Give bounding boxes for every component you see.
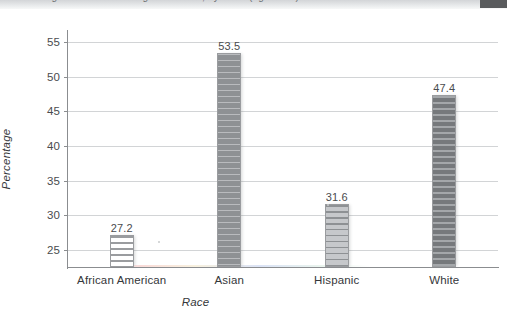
plot-area: 27.253.531.647.4 bbox=[68, 32, 498, 267]
gridline bbox=[68, 77, 498, 78]
y-tick-label: 35 bbox=[20, 175, 60, 187]
scan-speck bbox=[327, 204, 329, 206]
x-axis-title: Race bbox=[182, 296, 210, 308]
y-axis-title: Percentage bbox=[0, 129, 12, 190]
y-tick-label: 45 bbox=[20, 105, 60, 117]
y-axis-tick bbox=[64, 42, 68, 43]
gridline bbox=[68, 42, 498, 43]
bar-african-american[interactable]: 27.2 bbox=[110, 235, 134, 267]
bar-value-label: 47.4 bbox=[433, 82, 455, 94]
x-axis-title-wrap: Race bbox=[0, 296, 507, 308]
chart-screenshot: Percentage of Bachelor's Degree Holders,… bbox=[0, 0, 507, 323]
bar-value-label: 53.5 bbox=[218, 40, 240, 52]
y-axis-tick bbox=[64, 215, 68, 216]
y-axis-tick bbox=[64, 77, 68, 78]
y-tick-label: 40 bbox=[20, 140, 60, 152]
cut-off-header-strip: Percentage of Bachelor's Degree Holders,… bbox=[0, 0, 507, 9]
bar-value-label: 31.6 bbox=[326, 191, 348, 203]
x-tick-label: African American bbox=[77, 274, 166, 286]
y-tick-label: 25 bbox=[20, 244, 60, 256]
bar-white[interactable]: 47.4 bbox=[432, 95, 456, 267]
bar-hatch-pattern bbox=[326, 205, 348, 266]
bar-hatch-pattern bbox=[218, 54, 240, 266]
y-tick-label: 30 bbox=[20, 209, 60, 221]
bar-hatch-pattern bbox=[111, 236, 133, 266]
bar-asian[interactable]: 53.5 bbox=[217, 53, 241, 267]
y-axis-tick bbox=[64, 111, 68, 112]
y-axis-tick bbox=[64, 181, 68, 182]
bar-value-label: 27.2 bbox=[111, 222, 133, 234]
y-axis-tick bbox=[64, 146, 68, 147]
x-tick-label: White bbox=[429, 274, 459, 286]
bar-hispanic[interactable]: 31.6 bbox=[325, 204, 349, 267]
y-axis-title-wrap: Percentage bbox=[0, 104, 14, 214]
y-tick-label: 50 bbox=[20, 71, 60, 83]
x-tick-label: Hispanic bbox=[314, 274, 359, 286]
cut-off-header-title: Percentage of Bachelor's Degree Holders,… bbox=[10, 0, 299, 2]
x-axis-line bbox=[67, 267, 499, 268]
scan-speck bbox=[158, 241, 160, 243]
bar-hatch-pattern bbox=[433, 96, 455, 266]
header-corner-block bbox=[480, 0, 507, 8]
y-axis-tick bbox=[64, 250, 68, 251]
x-tick-label: Asian bbox=[214, 274, 244, 286]
y-tick-label: 55 bbox=[20, 36, 60, 48]
